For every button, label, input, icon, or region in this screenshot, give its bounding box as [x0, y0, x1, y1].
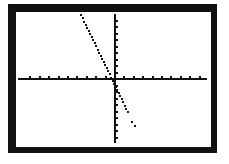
y-axis-tick — [116, 46, 118, 48]
graph-line-pixel — [97, 49, 99, 51]
graph-line-pixel — [107, 70, 109, 72]
graph-line-pixel — [86, 27, 88, 29]
x-axis-tick — [95, 76, 97, 78]
x-axis-tick — [189, 76, 191, 78]
y-axis-tick — [116, 33, 118, 35]
graph-line-pixel — [112, 80, 114, 82]
y-axis-tick — [116, 98, 118, 100]
y-axis-tick — [116, 104, 118, 106]
x-axis-tick — [161, 76, 163, 78]
x-axis-tick — [133, 76, 135, 78]
x-axis-tick — [199, 76, 201, 78]
x-axis-tick — [152, 76, 154, 78]
y-axis-tick — [116, 20, 118, 22]
graph-line-pixel — [124, 105, 126, 107]
graph-line-pixel — [119, 95, 121, 97]
graph-line-pixel — [88, 30, 90, 32]
graph-line-pixel — [131, 121, 133, 123]
x-axis-tick — [67, 76, 69, 78]
graph-line-pixel — [125, 108, 127, 110]
graph-line-pixel — [100, 55, 102, 57]
graph-line-pixel — [109, 73, 111, 75]
y-axis-tick — [116, 124, 118, 126]
graph-line-pixel — [122, 101, 124, 103]
graph-line-pixel — [98, 52, 100, 54]
graph-line-pixel — [89, 33, 91, 35]
graph-line-pixel — [115, 86, 117, 88]
graph-line-pixel — [113, 83, 115, 85]
y-axis-tick — [116, 26, 118, 28]
y-axis-tick — [116, 111, 118, 113]
graph-line-pixel — [110, 77, 112, 79]
x-axis — [18, 78, 207, 80]
graph-line-pixel — [103, 61, 105, 63]
graph-line-pixel — [92, 39, 94, 41]
y-axis-tick — [116, 39, 118, 41]
y-axis-tick — [116, 130, 118, 132]
graph-line-pixel — [95, 45, 97, 47]
x-axis-tick — [180, 76, 182, 78]
y-axis-tick — [116, 65, 118, 67]
graph-line-pixel — [101, 58, 103, 60]
y-axis-tick — [116, 72, 118, 74]
y-axis-tick — [116, 59, 118, 61]
graph-line-pixel — [83, 21, 85, 23]
y-axis-tick — [116, 137, 118, 139]
graph-line-pixel — [127, 111, 129, 113]
graph-line-pixel — [82, 17, 84, 19]
calculator-screen-frame — [8, 4, 217, 153]
x-axis-tick — [105, 76, 107, 78]
x-axis-tick — [39, 76, 41, 78]
y-axis-tick — [116, 91, 118, 93]
graph-line-pixel — [116, 89, 118, 91]
x-axis-tick — [142, 76, 144, 78]
x-axis-tick — [86, 76, 88, 78]
x-axis-tick — [48, 76, 50, 78]
graph-line-pixel — [91, 36, 93, 38]
graph-line-pixel — [134, 125, 136, 127]
x-axis-tick — [123, 76, 125, 78]
graph-line-pixel — [106, 67, 108, 69]
y-axis-tick — [116, 117, 118, 119]
graph-line-pixel — [104, 64, 106, 66]
graph-plot — [16, 12, 211, 147]
graph-line-pixel — [121, 98, 123, 100]
y-axis-tick — [116, 52, 118, 54]
x-axis-tick — [170, 76, 172, 78]
graph-line-pixel — [85, 24, 87, 26]
x-axis-tick — [29, 76, 31, 78]
x-axis-tick — [76, 76, 78, 78]
graph-line-pixel — [118, 92, 120, 94]
graph-line-pixel — [80, 14, 82, 16]
graph-screen — [16, 12, 211, 147]
y-axis — [114, 14, 116, 143]
x-axis-tick — [58, 76, 60, 78]
graph-line-pixel — [94, 42, 96, 44]
